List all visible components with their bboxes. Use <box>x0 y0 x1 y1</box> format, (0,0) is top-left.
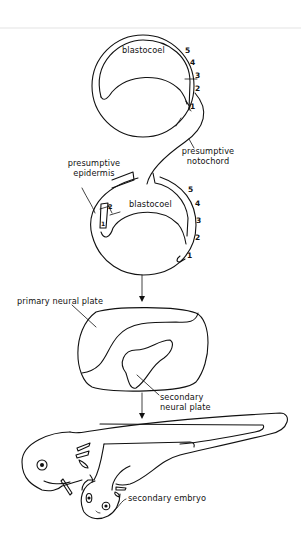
arrow-to-neurula <box>139 275 145 302</box>
diagram-drawing <box>0 0 301 547</box>
epidermis-label-line2: epidermis <box>66 169 122 179</box>
host-region-number-4: 4 <box>195 200 200 208</box>
arrow-to-tailbud <box>139 393 145 419</box>
region-number-1: 1 <box>190 103 195 111</box>
blastocoel-label-host: blastocoel <box>129 200 172 210</box>
diagram-canvas: blastocoel 5 4 3 2 1 presumptive notocho… <box>0 0 301 547</box>
blastocoel-label-donor: blastocoel <box>122 46 165 56</box>
region-number-4: 4 <box>190 59 195 67</box>
primary-neural-plate-label: primary neural plate <box>17 297 103 307</box>
host-region-number-1: 1 <box>187 252 192 260</box>
secondary-embryo-label: secondary embryo <box>128 494 206 504</box>
host-region-number-3: 3 <box>196 217 201 225</box>
region-number-2: 2 <box>195 85 200 93</box>
graft-number-2: 2 <box>108 203 113 211</box>
presumptive-epidermis-label: presumptive epidermis <box>66 159 122 178</box>
secondary-neural-plate-label: secondary neural plate <box>160 392 211 412</box>
graft-number-1: 1 <box>101 220 105 228</box>
host-region-number-2: 2 <box>195 234 200 242</box>
host-region-number-5: 5 <box>188 186 193 194</box>
region-number-5: 5 <box>185 47 190 55</box>
notochord-label-line2: notochord <box>172 157 244 167</box>
secondary-plate-line1: secondary <box>160 392 211 402</box>
region-number-3: 3 <box>195 72 200 80</box>
secondary-plate-line2: neural plate <box>160 402 211 412</box>
presumptive-notochord-label: presumptive notochord <box>172 147 244 166</box>
neurula <box>72 305 208 395</box>
host-gastrula <box>82 172 196 275</box>
